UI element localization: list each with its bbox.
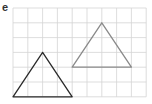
grid-diagram	[0, 0, 152, 104]
square-grid	[13, 8, 146, 97]
